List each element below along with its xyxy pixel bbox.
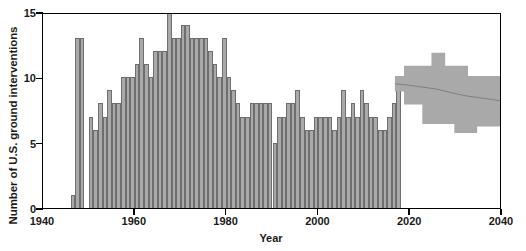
x-tick-label: 1980: [201, 215, 251, 227]
y-tick-label: 5: [6, 138, 36, 150]
forecast-trend-line: [43, 14, 500, 208]
x-tick-label: 2040: [476, 215, 526, 227]
plot-inner: [43, 14, 500, 208]
x-tick-label: 2020: [384, 215, 434, 227]
x-tick-label: 1940: [17, 215, 67, 227]
y-tick-label: 0: [6, 203, 36, 215]
y-tick-label: 10: [6, 72, 36, 84]
plot-area: [42, 13, 501, 209]
x-axis-label: Year: [40, 232, 502, 244]
y-tick-label: 15: [6, 7, 36, 19]
x-tick-label: 2000: [292, 215, 342, 227]
x-tick-label: 1960: [109, 215, 159, 227]
chart-figure: Number of U.S. ground interventions 0510…: [0, 0, 526, 251]
